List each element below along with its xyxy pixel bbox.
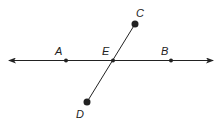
label-d: D [76,108,84,120]
point-a [64,59,68,63]
label-c: C [136,7,144,19]
label-b: B [161,45,168,57]
label-e: E [102,45,110,57]
point-d [84,99,91,106]
point-b [169,59,173,63]
geometry-diagram: A E B C D [0,0,219,126]
label-a: A [54,45,62,57]
point-c [132,21,139,28]
point-e [111,59,115,63]
segment-cd [87,24,135,102]
